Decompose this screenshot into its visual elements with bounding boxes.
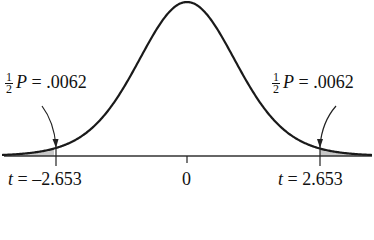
right-arrowhead [317, 139, 323, 148]
p-symbol: P [16, 72, 27, 92]
tick-label-center: 0 [182, 170, 191, 188]
p-symbol: P [283, 72, 294, 92]
fraction-denominator: 2 [272, 84, 280, 95]
t-value: = 2.653 [283, 169, 343, 188]
t-value: = –2.653 [13, 169, 82, 188]
left-tail-annotation: 12P = .0062 [5, 72, 87, 95]
fraction-denominator: 2 [5, 84, 13, 95]
p-value: = .0062 [27, 72, 87, 92]
fraction-half: 12 [272, 72, 280, 95]
p-value: = .0062 [294, 72, 354, 92]
fraction-half: 12 [5, 72, 13, 95]
right-tail-annotation: 12P = .0062 [272, 72, 354, 95]
tick-label-left: t = –2.653 [8, 170, 82, 188]
tick-label-right: t = 2.653 [278, 170, 343, 188]
